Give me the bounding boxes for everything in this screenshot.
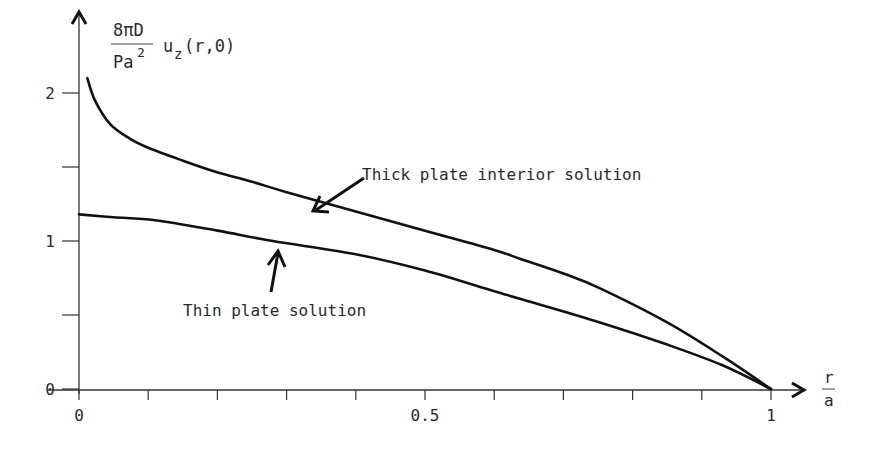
chart: 00.51012 8πD Pa 2 u z (r,0) r a Thick pl… — [0, 0, 877, 452]
x-tick-label: 1 — [766, 406, 776, 425]
x-tick-label: 0 — [74, 406, 84, 425]
y-axis-label-denominator-sup: 2 — [137, 45, 145, 60]
axes: 00.51012 — [45, 12, 804, 425]
y-axis-label-function: u — [163, 36, 173, 56]
series-group — [79, 78, 771, 389]
x-axis-label-numerator: r — [824, 368, 834, 387]
x-axis-label-denominator: a — [824, 391, 834, 410]
thin-plate-annotation: Thin plate solution — [183, 301, 366, 320]
y-axis-label-numerator: 8πD — [113, 20, 144, 40]
annotation-arrows — [268, 178, 364, 292]
x-tick-label: 0.5 — [411, 406, 440, 425]
y-tick-label: 2 — [45, 84, 55, 103]
y-tick-label: 1 — [45, 232, 55, 251]
y-tick-label: 0 — [45, 380, 55, 399]
thin-annotation-arrow-icon — [268, 251, 285, 292]
y-axis-label-args: (r,0) — [184, 36, 235, 56]
thick-plate-curve — [87, 78, 771, 389]
y-axis-label-denominator: Pa — [113, 52, 133, 72]
y-axis-label-subscript: z — [174, 46, 182, 62]
labels: 8πD Pa 2 u z (r,0) r a Thick plate inter… — [111, 20, 835, 410]
thick-plate-annotation: Thick plate interior solution — [362, 165, 641, 184]
